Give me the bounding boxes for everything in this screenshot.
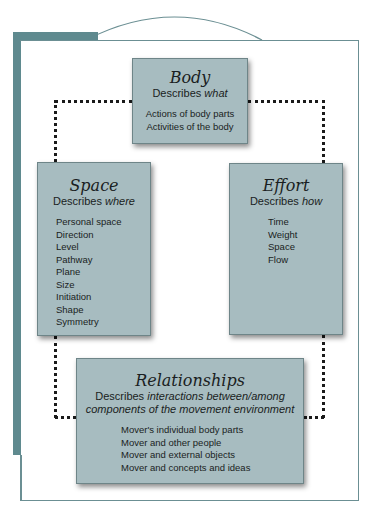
effort-item: Space	[268, 241, 342, 254]
frame-left-border	[20, 455, 22, 501]
connector-top-left	[55, 100, 132, 103]
relationships-box: Relationships Describes interactions bet…	[76, 358, 304, 484]
connector-left-upper	[54, 100, 57, 162]
body-items: Actions of body parts Activities of the …	[133, 108, 247, 133]
space-item: Shape	[56, 304, 150, 317]
effort-item: Flow	[268, 254, 342, 267]
effort-box: Effort Describes how Time Weight Space F…	[229, 163, 343, 335]
space-box: Space Describes where Personal space Dir…	[37, 162, 151, 336]
relationships-item: Mover's individual body parts	[121, 424, 303, 437]
space-item: Symmetry	[56, 316, 150, 329]
relationships-item: Mover and external objects	[121, 449, 303, 462]
frame-accent-top	[13, 32, 98, 40]
space-title: Space	[38, 177, 150, 195]
space-item: Size	[56, 279, 150, 292]
space-item: Pathway	[56, 254, 150, 267]
relationships-description: Describes interactions between/among com…	[77, 390, 303, 416]
space-item: Direction	[56, 229, 150, 242]
body-description: Describes what	[133, 87, 247, 100]
body-item: Activities of the body	[133, 121, 247, 134]
connector-right-lower	[322, 335, 325, 418]
relationships-item: Mover and concepts and ideas	[121, 462, 303, 475]
space-item: Personal space	[56, 216, 150, 229]
space-item: Initiation	[56, 291, 150, 304]
space-item: Level	[56, 241, 150, 254]
relationships-item: Mover and other people	[121, 437, 303, 450]
effort-item: Time	[268, 216, 342, 229]
effort-item: Weight	[268, 229, 342, 242]
connector-right-upper	[322, 100, 325, 163]
space-items: Personal space Direction Level Pathway P…	[56, 216, 150, 329]
body-box: Body Describes what Actions of body part…	[132, 58, 248, 144]
connector-bottom-right	[304, 416, 324, 419]
connector-bottom-left	[55, 416, 76, 419]
effort-items: Time Weight Space Flow	[268, 216, 342, 266]
relationships-items: Mover's individual body parts Mover and …	[121, 424, 303, 474]
effort-description: Describes how	[230, 195, 342, 208]
connector-top-right	[248, 100, 325, 103]
connector-left-lower	[54, 336, 57, 418]
relationships-title: Relationships	[77, 372, 303, 390]
space-item: Plane	[56, 266, 150, 279]
space-description: Describes where	[38, 195, 150, 208]
effort-title: Effort	[230, 177, 342, 195]
body-title: Body	[133, 69, 247, 87]
body-item: Actions of body parts	[133, 108, 247, 121]
